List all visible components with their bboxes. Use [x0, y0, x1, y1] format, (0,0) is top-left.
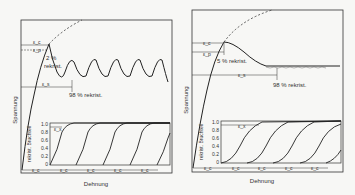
right-inset-ytick: 0.2	[212, 151, 219, 157]
right-interval-mark: ε_c	[204, 165, 212, 171]
right-interval-mark: ε_c	[285, 165, 293, 171]
right-inset-ytick: 0.6	[212, 135, 219, 141]
left-inset-ytick: 0.2	[41, 153, 48, 159]
right-inset-ytick: 0	[216, 159, 219, 165]
left-inset-ytick: 1.0	[41, 121, 48, 127]
left-annotation-98pct: 98 % rekrist.	[69, 92, 103, 98]
right-inset-ylabel: rekrist. Bruchteil	[198, 124, 204, 160]
right-annotation-5pct: 5 % rekrist.	[217, 58, 247, 64]
left-inset-eps-x: ε_x	[54, 126, 62, 132]
left-interval-mark: ε_c	[60, 167, 68, 173]
right-xlabel: Dehnung	[250, 178, 274, 184]
left-interval-mark: ε_c	[32, 167, 40, 173]
right-interval-mark: ε_c	[232, 165, 240, 171]
right-inset-eps-x: ε_x	[238, 123, 246, 129]
left-annotation-2pct: 2 %	[46, 55, 57, 61]
left-eps-s-label: ε_s	[42, 81, 50, 87]
left-inset-ylabel: rekrist. Bruchteil	[26, 126, 32, 162]
left-panel: ε_c ε_p ε_s 2 % rekrist. 98 % rekrist. S…	[12, 20, 172, 187]
left-inset-ytick: 0.6	[41, 137, 48, 143]
left-inset-ytick: 0.8	[41, 129, 48, 135]
right-dashed-curve	[224, 10, 272, 42]
right-interval-mark: ε_c	[311, 165, 319, 171]
left-inset: ε_x 1.0 0.8 0.6 0.4 0.2 0 rekrist. Bruch…	[22, 121, 170, 173]
left-xlabel: Dehnung	[84, 181, 108, 187]
left-annotation-rekrist: rekrist.	[44, 63, 62, 69]
right-eps-c-label: ε_c	[203, 40, 211, 46]
left-eps-p-label: ε_p	[33, 47, 41, 53]
right-inset-ytick: 1.0	[212, 119, 219, 125]
left-inset-frame	[50, 123, 170, 165]
right-interval-mark: ε_c	[258, 165, 266, 171]
left-inset-ytick: 0.4	[41, 145, 48, 151]
left-interval-mark: ε_c	[87, 167, 95, 173]
left-oscillating-curve	[49, 44, 168, 82]
left-inset-ytick: 0	[45, 161, 48, 167]
right-inset-ytick: 0.8	[212, 127, 219, 133]
left-interval-mark: ε_c	[141, 167, 149, 173]
right-panel: ε_c ε_p ε_s 5 % rekrist. 98 % rekrist. S…	[183, 10, 343, 184]
left-dashed-curve	[49, 20, 82, 44]
right-eps-p-label: ε_p	[203, 51, 211, 57]
right-steady-state-noise	[266, 67, 326, 68]
diagram-canvas: ε_c ε_p ε_s 2 % rekrist. 98 % rekrist. S…	[0, 0, 355, 195]
right-ylabel: Spannung	[183, 86, 189, 113]
right-inset-ytick: 0.4	[212, 143, 219, 149]
left-ylabel: Spannung	[12, 96, 18, 123]
right-inset: ε_x 1.0 0.8 0.6 0.4 0.2 0 rekrist. Bruch…	[193, 119, 341, 171]
left-interval-mark: ε_c	[114, 167, 122, 173]
left-eps-c-label: ε_c	[33, 39, 41, 45]
right-eps-s-label: ε_s	[238, 72, 246, 78]
right-annotation-98pct: 98 % rekrist.	[273, 82, 307, 88]
